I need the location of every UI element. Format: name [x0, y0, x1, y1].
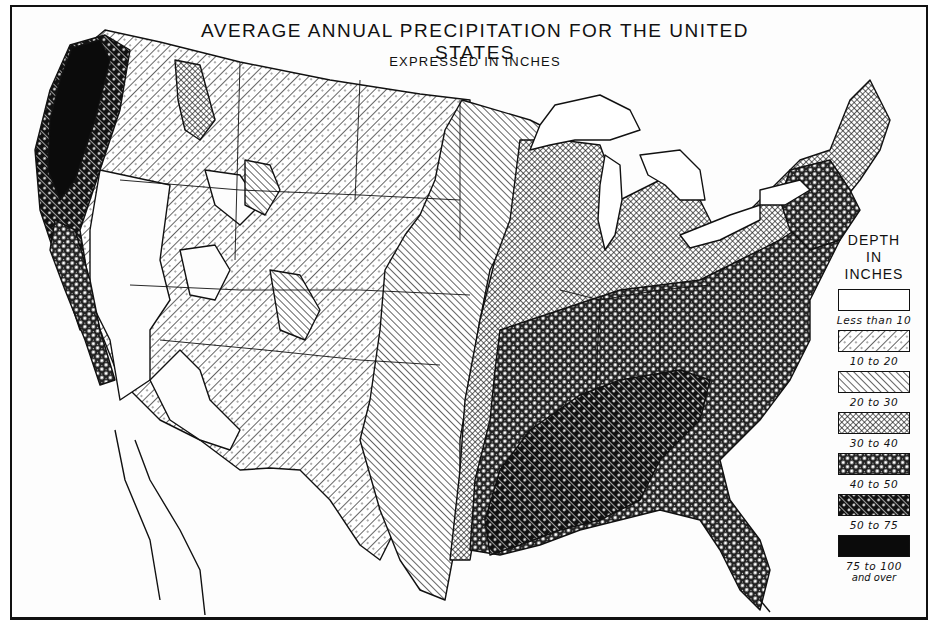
- legend-item-30-40: 30 to 40: [828, 412, 920, 449]
- legend-heading-line: INCHES: [828, 266, 920, 283]
- legend-label: 40 to 50: [828, 478, 920, 490]
- swatch-diagonal-lines: [838, 371, 910, 393]
- legend-heading: DEPTH IN INCHES: [828, 232, 920, 283]
- legend-item-40-50: 40 to 50: [828, 453, 920, 490]
- legend-sublabel: and over: [828, 572, 920, 583]
- lake-superior: [530, 95, 640, 150]
- swatch-crosshatch-stars: [838, 453, 910, 475]
- map-subtitle: EXPRESSED IN INCHES: [310, 54, 640, 69]
- precipitation-map: [0, 0, 934, 632]
- swatch-diagonal-dotted: [838, 330, 910, 352]
- legend-label: 20 to 30: [828, 396, 920, 408]
- swatch-solid-black: [838, 535, 910, 557]
- baja-california: [115, 430, 205, 615]
- legend-label: 10 to 20: [828, 355, 920, 367]
- legend-label: 50 to 75: [828, 519, 920, 531]
- legend: DEPTH IN INCHES Less than 10 10 to 20 20…: [828, 232, 920, 587]
- legend-item-20-30: 20 to 30: [828, 371, 920, 408]
- legend-item-10-20: 10 to 20: [828, 330, 920, 367]
- legend-label: 30 to 40: [828, 437, 920, 449]
- swatch-heavy-diagonal-dotted: [838, 494, 910, 516]
- swatch-blank: [838, 289, 910, 311]
- legend-heading-line: IN: [828, 249, 920, 266]
- legend-label: 75 to 100: [828, 560, 920, 572]
- swatch-crosshatch-fine: [838, 412, 910, 434]
- legend-item-50-75: 50 to 75: [828, 494, 920, 531]
- legend-item-75-plus: 75 to 100 and over: [828, 535, 920, 583]
- legend-label: Less than 10: [828, 314, 920, 326]
- legend-item-less-than-10: Less than 10: [828, 289, 920, 326]
- legend-heading-line: DEPTH: [828, 232, 920, 249]
